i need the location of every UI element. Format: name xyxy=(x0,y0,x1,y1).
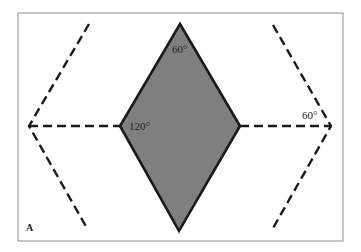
angle-label-left: 120° xyxy=(129,120,150,132)
angle-label-right: 60° xyxy=(302,109,317,121)
hexagonal-tiling-diagram xyxy=(0,0,361,252)
angle-label-top: 60° xyxy=(172,43,187,55)
left-dashed-chevron xyxy=(29,24,120,230)
right-dashed-chevron xyxy=(240,25,331,230)
panel-label: A xyxy=(26,222,33,233)
